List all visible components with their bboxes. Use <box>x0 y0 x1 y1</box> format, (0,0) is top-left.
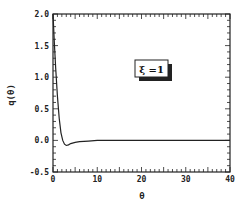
plot-frame <box>53 14 230 172</box>
x-axis-title: θ <box>139 191 144 201</box>
axis-ticks <box>53 14 230 172</box>
chart: 2.01.51.00.50.0-0.5 010203040 θ q(θ) ξ =… <box>0 0 246 215</box>
y-tick-labels: 2.01.51.00.50.0-0.5 <box>30 10 49 177</box>
y-axis-title: q(θ) <box>6 84 16 106</box>
legend-label: ξ =1 <box>139 64 164 75</box>
x-tick-label: 40 <box>225 175 235 184</box>
x-tick-label: 30 <box>181 175 191 184</box>
y-tick-label: 1.0 <box>35 73 50 82</box>
legend-box: ξ =1 <box>135 60 172 81</box>
y-tick-label: 0.0 <box>35 136 50 145</box>
x-tick-label: 10 <box>92 175 102 184</box>
x-tick-labels: 010203040 <box>51 175 235 184</box>
x-tick-label: 0 <box>51 175 56 184</box>
y-tick-label: 2.0 <box>35 10 50 19</box>
y-tick-label: -0.5 <box>30 168 49 177</box>
x-tick-label: 20 <box>137 175 147 184</box>
y-tick-label: 1.5 <box>35 42 50 51</box>
y-tick-label: 0.5 <box>35 105 50 114</box>
